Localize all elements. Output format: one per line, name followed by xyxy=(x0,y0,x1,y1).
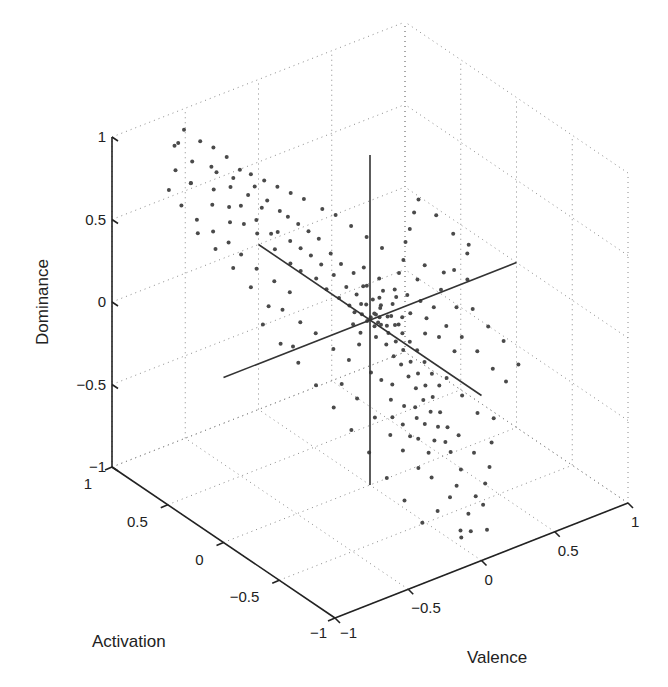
data-point xyxy=(349,428,353,432)
axes xyxy=(105,137,633,623)
data-point xyxy=(278,209,282,213)
data-point xyxy=(443,440,447,444)
data-point xyxy=(307,229,311,233)
data-point xyxy=(437,335,441,339)
data-point xyxy=(400,315,404,319)
data-point xyxy=(413,405,417,409)
valence-tick-label: 1 xyxy=(631,513,639,530)
data-point xyxy=(436,425,440,429)
data-point xyxy=(344,285,348,289)
data-point xyxy=(210,203,214,207)
floor-grid-line xyxy=(332,381,555,532)
activation-tick xyxy=(105,467,112,470)
activation-tick xyxy=(328,618,335,621)
data-point xyxy=(423,383,427,387)
data-point xyxy=(416,278,420,282)
data-point xyxy=(408,340,412,344)
data-point xyxy=(397,271,401,275)
data-point xyxy=(401,449,405,453)
data-point xyxy=(385,476,389,480)
back-wall-grid-line xyxy=(112,22,405,137)
data-point xyxy=(331,347,335,351)
data-point xyxy=(309,254,313,258)
dominance-tick xyxy=(112,467,118,471)
data-point xyxy=(449,450,453,454)
data-point xyxy=(379,378,383,382)
activation-tick-label: 0.5 xyxy=(127,513,148,530)
data-point xyxy=(379,303,383,307)
data-point xyxy=(430,372,434,376)
data-point xyxy=(444,324,448,328)
data-point xyxy=(357,343,361,347)
data-point xyxy=(455,484,459,488)
dominance-tick xyxy=(112,220,118,224)
data-point xyxy=(384,342,388,346)
data-point xyxy=(238,168,242,172)
data-point xyxy=(423,263,427,267)
data-point xyxy=(483,482,487,486)
data-point xyxy=(438,410,442,414)
data-point xyxy=(179,204,183,208)
floor-grid-line xyxy=(279,465,572,580)
data-point xyxy=(349,224,353,228)
data-point xyxy=(365,284,369,288)
data-point xyxy=(405,293,409,297)
data-point xyxy=(377,276,381,280)
data-point xyxy=(371,298,375,302)
data-point xyxy=(352,271,356,275)
activation-tick xyxy=(161,505,168,508)
data-point xyxy=(469,529,473,533)
data-point xyxy=(249,172,253,176)
data-point xyxy=(273,247,277,251)
data-point xyxy=(465,251,469,255)
data-point xyxy=(209,165,213,169)
data-point xyxy=(227,205,231,209)
data-point xyxy=(253,185,257,189)
valence-tick xyxy=(628,503,633,508)
data-point xyxy=(332,273,336,277)
x-axis-label: Valence xyxy=(467,648,527,667)
data-point xyxy=(466,512,470,516)
data-point xyxy=(229,185,233,189)
data-point xyxy=(359,302,363,306)
data-point xyxy=(474,494,478,498)
data-point xyxy=(239,204,243,208)
data-point xyxy=(288,239,292,243)
activation-tick xyxy=(217,543,224,546)
data-point xyxy=(451,232,455,236)
data-point xyxy=(393,323,397,327)
data-point xyxy=(262,179,266,183)
valence-tick xyxy=(408,589,413,594)
data-point xyxy=(431,395,435,399)
data-point xyxy=(391,302,395,306)
data-point xyxy=(453,349,457,353)
valence-tick-label: −0.5 xyxy=(411,599,441,616)
data-point xyxy=(488,465,492,469)
data-point xyxy=(417,198,421,202)
activation-tick-label: −0.5 xyxy=(230,588,260,605)
activation-tick-label: −1 xyxy=(310,624,327,641)
data-point xyxy=(211,146,215,150)
data-point xyxy=(296,361,300,365)
data-point xyxy=(407,374,411,378)
data-point xyxy=(190,160,194,164)
data-point xyxy=(334,213,338,217)
data-point xyxy=(467,243,471,247)
data-point xyxy=(408,311,412,315)
data-point xyxy=(314,383,318,387)
data-point xyxy=(231,176,235,180)
data-point xyxy=(299,246,303,250)
data-point xyxy=(409,360,413,364)
data-point xyxy=(355,396,359,400)
valence-tick-label: −1 xyxy=(340,624,357,641)
tick-labels: −1−0.500.51−1−0.500.51−1−0.500.51 xyxy=(76,128,639,641)
data-point xyxy=(504,380,508,384)
data-point xyxy=(475,349,479,353)
data-point xyxy=(394,340,398,344)
data-point xyxy=(432,305,436,309)
data-point xyxy=(261,323,265,327)
data-point xyxy=(430,476,434,480)
data-point xyxy=(392,354,396,358)
data-point xyxy=(446,425,450,429)
data-point xyxy=(460,394,464,398)
